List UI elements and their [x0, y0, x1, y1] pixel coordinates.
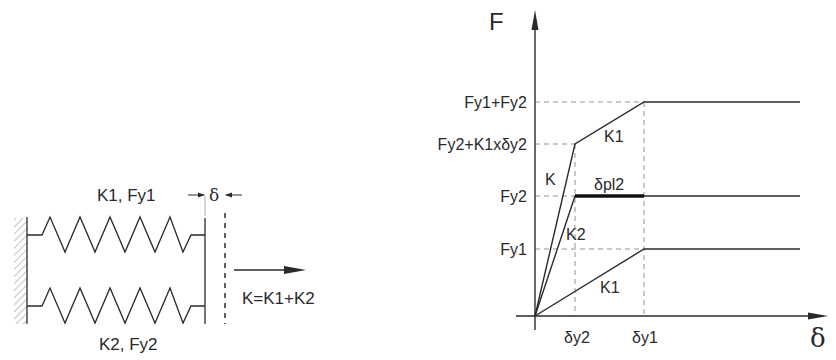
equivalent-stiffness-label: K=K1+K2 [242, 289, 315, 308]
guide-lines [535, 102, 644, 316]
spring-model: δ K1, Fy1 K2, Fy2 K=K1+K2 [14, 185, 315, 354]
y-tick-fy1: Fy1 [500, 241, 527, 258]
force-displacement-chart: F δ Fy1+Fy2 Fy2+K1xδy2 Fy2 Fy1 δy2 δy1 K… [438, 8, 828, 353]
y-tick-fy2: Fy2 [500, 188, 527, 205]
x-tick-dy1: δy1 [632, 329, 658, 346]
label-k1-lower: K1 [600, 279, 620, 296]
spring-k1 [27, 217, 205, 252]
label-k2: K2 [566, 226, 586, 243]
force-arrowhead-icon [284, 266, 306, 274]
spring-top-label: K1, Fy1 [97, 186, 156, 205]
spring-k2 [27, 288, 205, 323]
y-axis-arrowhead-icon [532, 10, 539, 30]
label-dpl2: δpl2 [594, 176, 624, 193]
fixed-wall-hatch [14, 218, 27, 324]
dim-arrowhead-left-icon [198, 193, 205, 198]
label-k1-upper: K1 [604, 128, 624, 145]
dim-arrowhead-right-icon [225, 193, 232, 198]
y-axis-label: F [489, 8, 504, 35]
spring-bottom-label: K2, Fy2 [99, 335, 158, 354]
x-axis-label: δ [810, 323, 826, 353]
x-tick-dy2: δy2 [564, 329, 590, 346]
diagram-canvas: δ K1, Fy1 K2, Fy2 K=K1+K2 F δ [0, 0, 836, 360]
x-axis-arrowhead-icon [808, 313, 828, 320]
label-k-combined: K [545, 171, 556, 188]
y-tick-fy2-k1dy2: Fy2+K1xδy2 [438, 136, 527, 153]
y-tick-fy1-fy2: Fy1+Fy2 [464, 94, 527, 111]
displacement-label: δ [209, 185, 219, 205]
